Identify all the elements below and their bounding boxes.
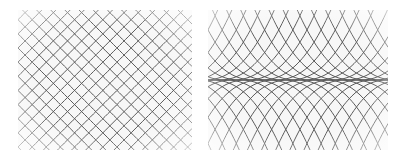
lattice-svg [18, 10, 192, 150]
panel-surface-undistorted [18, 10, 192, 150]
edge-fade-overlay [18, 10, 192, 150]
edge-fade-overlay [208, 10, 388, 150]
texture-panel-undistorted: Regular diagonal lattice [18, 10, 192, 150]
panel-surface-warped [208, 10, 388, 150]
lattice-svg [208, 10, 388, 150]
figure-root: Regular diagonal lattice Vertically pinc… [0, 0, 400, 160]
texture-panel-warped: Vertically pinched lattice [208, 10, 388, 150]
